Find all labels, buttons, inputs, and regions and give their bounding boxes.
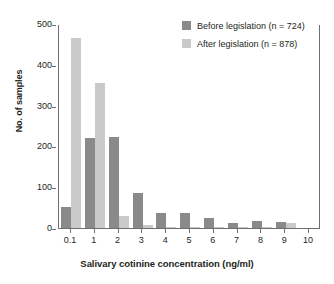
y-tick-label: 200 (26, 142, 52, 151)
y-axis-tick-labels: 0100200300400500 (26, 0, 52, 284)
x-tick-label: 3 (128, 235, 154, 245)
bar (85, 138, 95, 228)
x-tick-label: 10 (295, 235, 321, 245)
x-tick-label: 4 (152, 235, 178, 245)
bar (71, 38, 81, 228)
bar (61, 207, 71, 228)
bar (190, 227, 200, 228)
bar (133, 193, 143, 228)
x-tick-label: 7 (224, 235, 250, 245)
x-tick-label: 6 (200, 235, 226, 245)
bar (228, 223, 238, 228)
bar (238, 227, 248, 228)
bar (262, 227, 272, 228)
x-axis-tick-labels: 0.112345678910 (58, 229, 320, 249)
y-tick-label: 0 (26, 224, 52, 233)
bar-group-container (59, 25, 319, 228)
chart-legend: Before legislation (n = 724) After legis… (182, 18, 305, 54)
y-tick-label: 100 (26, 183, 52, 192)
bar (95, 83, 105, 228)
bar (252, 221, 262, 228)
bar (276, 222, 286, 228)
x-tick-label: 8 (247, 235, 273, 245)
y-tick-mark (52, 188, 56, 189)
bar (214, 227, 224, 228)
y-tick-label: 400 (26, 61, 52, 70)
legend-swatch-after-icon (182, 39, 191, 48)
y-tick-mark (52, 25, 56, 26)
y-tick-label: 300 (26, 102, 52, 111)
x-tick-label: 9 (271, 235, 297, 245)
bar (204, 218, 214, 228)
x-tick-label: 0.1 (57, 235, 83, 245)
plot-area (58, 25, 320, 229)
x-tick-label: 1 (81, 235, 107, 245)
legend-item-before: Before legislation (n = 724) (182, 18, 305, 33)
bar (286, 223, 296, 228)
bar (156, 213, 166, 229)
chart-figure: No. of samples 0100200300400500 0.112345… (0, 0, 334, 284)
y-tick-label: 500 (26, 20, 52, 29)
y-tick-mark (52, 107, 56, 108)
bar (143, 225, 153, 228)
bar (119, 216, 129, 228)
bar (166, 227, 176, 228)
x-tick-label: 5 (176, 235, 202, 245)
bar (180, 213, 190, 228)
x-tick-label: 2 (105, 235, 131, 245)
legend-label-before: Before legislation (n = 724) (197, 21, 305, 31)
x-axis-title: Salivary cotinine concentration (ng/ml) (0, 258, 334, 269)
legend-item-after: After legislation (n = 878) (182, 36, 305, 51)
y-tick-mark (52, 229, 56, 230)
legend-swatch-before-icon (182, 21, 191, 30)
y-tick-mark (52, 66, 56, 67)
legend-label-after: After legislation (n = 878) (197, 39, 297, 49)
y-axis-title: No. of samples (14, 46, 24, 156)
y-tick-mark (52, 147, 56, 148)
bar (109, 137, 119, 228)
